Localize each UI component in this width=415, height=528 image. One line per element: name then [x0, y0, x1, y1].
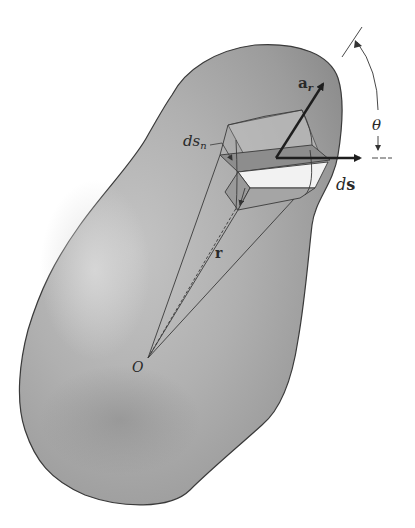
- origin-label: O: [132, 359, 144, 375]
- theta-ref-tilted: [342, 27, 362, 57]
- diagram-canvas: ar θ ds dsn r O: [0, 0, 415, 528]
- body-diagram: ar θ ds dsn r O: [0, 0, 415, 528]
- ds-label: ds: [336, 175, 355, 194]
- theta-label: θ: [372, 116, 381, 134]
- theta-arc: [357, 42, 378, 110]
- shading-light: [40, 180, 150, 360]
- shading-dark: [40, 365, 200, 475]
- r-label: r: [215, 245, 223, 261]
